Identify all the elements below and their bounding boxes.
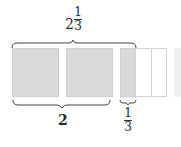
third-part-empty-2 xyxy=(151,48,167,97)
bottom-brace-two-icon xyxy=(13,100,110,108)
third-part-empty-1 xyxy=(135,48,152,97)
bottom-brace-third-icon xyxy=(120,100,136,105)
unit-square-whole-2 xyxy=(66,48,113,97)
bottom-label-denominator: 3 xyxy=(124,122,132,133)
bottom-label-numerator: 1 xyxy=(124,108,132,119)
unit-square-whole-1 xyxy=(12,48,59,97)
edge-strip xyxy=(174,48,181,97)
third-part-shaded xyxy=(120,48,136,97)
bottom-label-one-third: 1 3 xyxy=(124,108,132,133)
bottom-label-two: 2 xyxy=(58,113,68,127)
top-brace-icon xyxy=(12,40,136,48)
